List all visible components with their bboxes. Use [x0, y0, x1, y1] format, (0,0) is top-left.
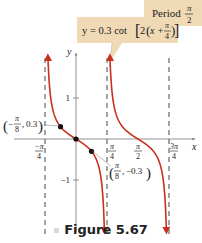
x-tick-den: 2 — [136, 152, 140, 161]
svg-text:8: 8 — [115, 172, 119, 181]
point-label-right: ( π 8 , −0.3 ) — [109, 161, 151, 182]
x-tick-num: π — [110, 142, 115, 151]
svg-text:π: π — [15, 114, 20, 123]
data-point — [89, 149, 94, 154]
equation-var: x + — [149, 25, 164, 36]
x-tick-den: 4 — [37, 152, 41, 161]
period-frac-den: 2 — [187, 15, 192, 25]
equation-inner: 2 — [140, 25, 145, 36]
x-tick-den: 4 — [110, 152, 114, 161]
svg-text:): ) — [146, 165, 151, 182]
svg-text:(: ( — [109, 165, 114, 182]
x-tick-num: π — [136, 142, 141, 151]
y-axis-label: y — [66, 46, 72, 57]
svg-text:0.3: 0.3 — [26, 119, 38, 129]
chart: Period π 2 y = 0.3 cot [ 2 ( x + π 4 ) ]… — [0, 0, 202, 243]
point-label-left: ( − π 8 , 0.3 ) — [3, 114, 43, 135]
caption-text: Figure 5.67 — [64, 222, 148, 237]
y-tick-label: 1 — [66, 93, 71, 103]
data-point — [58, 124, 63, 129]
svg-text:,: , — [22, 119, 24, 129]
x-tick-num: 3π — [169, 142, 179, 151]
svg-text:): ) — [38, 118, 43, 135]
equation-lhs: y = 0.3 cot — [82, 25, 127, 36]
y-tick-label: −1 — [60, 175, 70, 185]
figure-caption: Figure 5.67 — [0, 222, 202, 237]
svg-text:π: π — [115, 161, 120, 170]
data-point — [73, 136, 78, 141]
svg-text:8: 8 — [15, 125, 19, 134]
equation-bracket-close: ] — [174, 22, 179, 39]
leader-right — [92, 151, 111, 166]
svg-text:−: − — [8, 119, 13, 129]
equation-frac-den: 4 — [165, 32, 169, 41]
x-tick-num: −π — [34, 142, 44, 151]
x-axis-label: x — [191, 141, 197, 152]
svg-text:−0.3: −0.3 — [126, 166, 143, 176]
x-tick-den: 4 — [172, 152, 176, 161]
leader-left — [44, 125, 60, 126]
caption-bullet — [54, 228, 59, 233]
svg-text:,: , — [122, 166, 124, 176]
period-frac-num: π — [187, 3, 192, 13]
